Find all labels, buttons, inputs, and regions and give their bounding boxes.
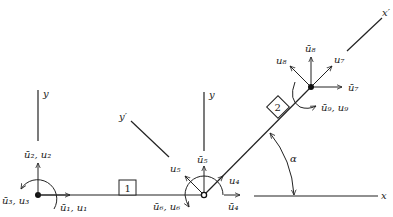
node-3-dot	[308, 84, 314, 90]
local-y-axis	[131, 121, 169, 157]
u7bar-label: ū₇	[348, 82, 358, 93]
u7-label: u₇	[334, 54, 344, 65]
global-y-label-left: y	[42, 88, 49, 99]
u5-label: u₅	[170, 163, 180, 174]
angle-alpha-label: α	[290, 153, 297, 164]
u7-arrow	[311, 66, 332, 87]
global-y-label-mid: y	[208, 89, 215, 100]
u5bar-label: ū₅	[197, 154, 207, 165]
node-3: ū₈ u₈ u₇ ū₇ ū₉, u₉	[276, 43, 358, 113]
local-x-axis	[347, 18, 382, 51]
u9-label: ū₉, u₉	[321, 102, 348, 113]
u8-label: u₈	[276, 55, 286, 66]
local-x-label: x′	[382, 7, 391, 18]
u4-label: u₄	[229, 175, 239, 186]
node-2: ū₅ u₅ u₄ ū₄ ū₆, u₆	[153, 154, 240, 212]
u1-label: ū₁, u₁	[60, 202, 87, 213]
element-1-label: 1	[125, 183, 131, 194]
u3-label: ū₃, u₃	[2, 195, 29, 206]
global-x-label: x	[381, 190, 387, 201]
frame-diagram: x′ y y y′ x α 1 2 ū₂, u₂ ū₁, u₁ ū₃, u₃ ū…	[0, 0, 393, 217]
u8-arrow	[290, 66, 311, 87]
element-2-label: 2	[275, 102, 281, 113]
node-2-dot	[201, 192, 206, 197]
u6-rotation-arrow	[185, 195, 189, 207]
u4bar-label: ū₄	[228, 201, 238, 212]
local-y-label: y′	[118, 111, 128, 122]
u8bar-label: ū₈	[305, 43, 315, 54]
u2-label: ū₂, u₂	[24, 149, 51, 160]
u6-label: ū₆, u₆	[153, 201, 180, 212]
angle-alpha-arc	[270, 133, 294, 195]
node-1: ū₂, u₂ ū₁, u₁ ū₃, u₃	[2, 149, 87, 213]
